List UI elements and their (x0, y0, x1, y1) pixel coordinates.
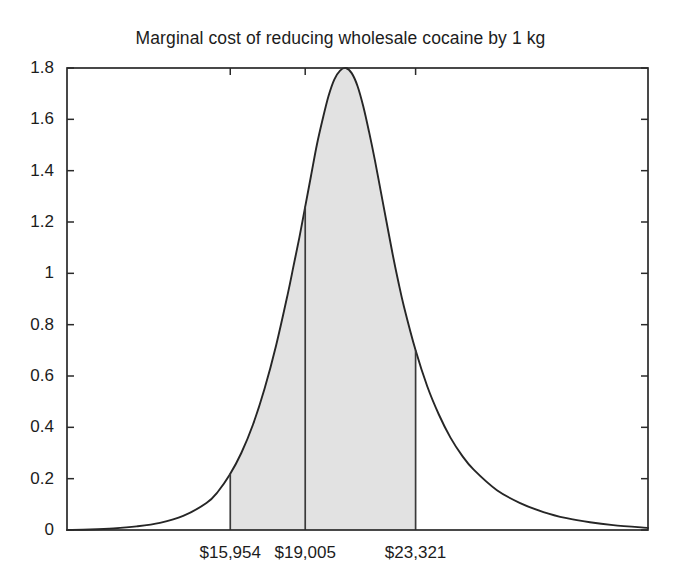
y-tick-label: 1.4 (0, 161, 54, 181)
figure-container: Marginal cost of reducing wholesale coca… (0, 0, 681, 586)
y-tick-label: 0.6 (0, 366, 54, 386)
y-tick-label: 0.4 (0, 417, 54, 437)
y-tick-label: 0.2 (0, 469, 54, 489)
x-axis-ticks (230, 68, 415, 75)
shaded-interval-region (230, 68, 415, 530)
y-tick-label: 1.2 (0, 212, 54, 232)
y-tick-label: 0.8 (0, 315, 54, 335)
x-tick-label: $15,954 (200, 543, 261, 563)
y-tick-label: 1.8 (0, 58, 54, 78)
y-tick-label: 1 (0, 263, 54, 283)
x-tick-label: $23,321 (385, 543, 446, 563)
x-tick-label: $19,005 (274, 543, 335, 563)
y-tick-label: 0 (0, 520, 54, 540)
chart-plot-area (0, 0, 681, 586)
y-tick-label: 1.6 (0, 109, 54, 129)
